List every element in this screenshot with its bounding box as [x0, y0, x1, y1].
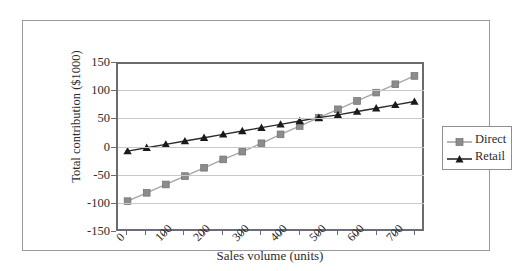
data-point-direct [239, 148, 246, 155]
series-line-direct [128, 76, 415, 201]
data-point-direct [411, 73, 418, 80]
legend-swatch-square-icon [447, 134, 472, 146]
gridline [118, 203, 424, 204]
data-point-retail [410, 97, 418, 104]
data-point-direct [162, 181, 169, 188]
data-point-direct [277, 131, 284, 138]
series-line-retail [128, 102, 415, 152]
data-point-direct [220, 156, 227, 163]
gridline [118, 175, 424, 176]
figure-frame: Total contribution ($1000) 150100500-50-… [22, 20, 490, 251]
legend-item-retail[interactable]: Retail [447, 148, 506, 165]
gridline [118, 147, 424, 148]
x-tick-mark-minor [222, 231, 223, 235]
legend-item-direct[interactable]: Direct [447, 131, 506, 148]
y-tick-label: 100 [91, 84, 110, 97]
y-axis-tick-labels: 150100500-50-100-150 [72, 62, 110, 231]
gridline [118, 118, 424, 119]
chart-legend: Direct Retail [442, 126, 512, 170]
legend-label-retail: Retail [475, 150, 505, 163]
data-point-direct [201, 164, 208, 171]
y-tick-label: -100 [87, 197, 110, 210]
x-tick-mark-minor [299, 231, 300, 235]
x-tick-mark-minor [376, 231, 377, 235]
plot-area [116, 62, 424, 231]
y-tick-mark [111, 175, 116, 176]
x-tick-mark-minor [126, 231, 127, 235]
y-tick-mark [111, 90, 116, 91]
y-tick-label: 50 [98, 112, 111, 125]
x-tick-mark-minor [183, 231, 184, 235]
y-tick-mark [111, 203, 116, 204]
x-axis-title: Sales volume (units) [116, 248, 424, 264]
y-tick-label: 150 [91, 56, 110, 69]
legend-label-direct: Direct [475, 133, 506, 146]
x-tick-mark-minor [337, 231, 338, 235]
y-tick-label: 0 [104, 141, 110, 154]
y-tick-mark [111, 62, 116, 63]
data-point-direct [143, 189, 150, 196]
y-tick-mark [111, 147, 116, 148]
x-tick-mark-minor [414, 231, 415, 235]
gridline [118, 90, 424, 91]
x-tick-mark-minor [260, 231, 261, 235]
x-tick-mark-minor [145, 231, 146, 235]
legend-swatch-triangle-icon [447, 151, 472, 163]
data-point-direct [392, 81, 399, 88]
series-layer [118, 62, 424, 229]
y-tick-label: -150 [87, 225, 110, 238]
y-tick-label: -50 [93, 169, 110, 182]
y-tick-mark [111, 118, 116, 119]
data-point-direct [354, 98, 361, 105]
